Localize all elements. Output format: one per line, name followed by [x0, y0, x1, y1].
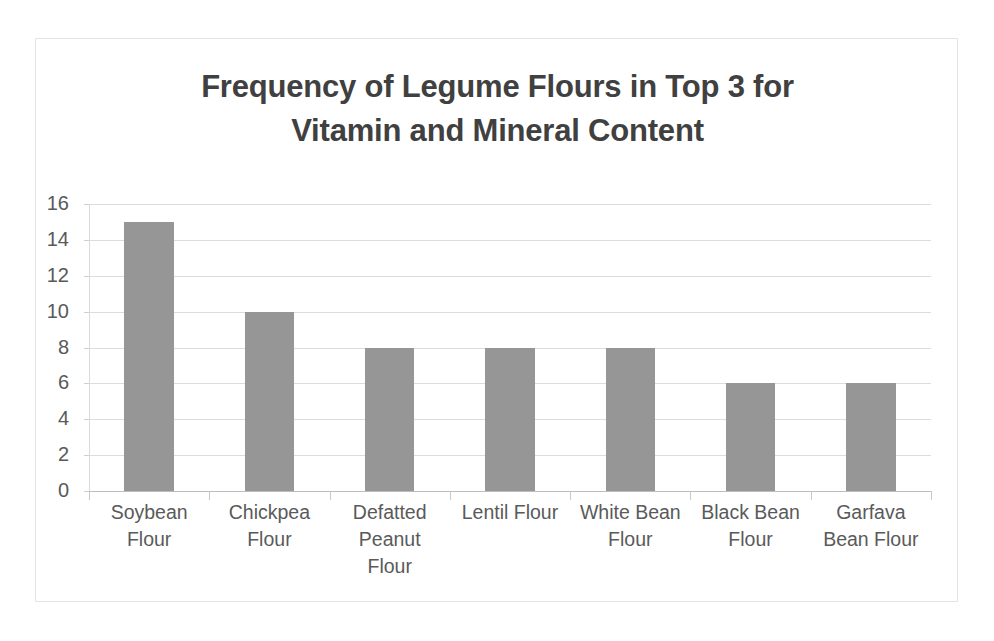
y-tick-label: 14: [29, 229, 69, 249]
chart-title-line-1: Frequency of Legume Flours in Top 3 for: [36, 65, 959, 109]
x-axis-category-label: GarfavaBean Flour: [811, 499, 931, 553]
y-tick-label: 8: [29, 337, 69, 357]
chart-container: Frequency of Legume Flours in Top 3 for …: [35, 38, 958, 602]
x-tick-mark: [931, 491, 932, 500]
category-label-line: White Bean: [570, 499, 690, 526]
category-label-line: Flour: [330, 553, 450, 580]
plot-area: 0246810121416: [89, 204, 931, 491]
bar[interactable]: [726, 383, 775, 491]
gridline: [89, 312, 931, 313]
category-label-line: Flour: [690, 526, 810, 553]
category-label-line: Flour: [209, 526, 329, 553]
category-label-line: Bean Flour: [811, 526, 931, 553]
y-tick-label: 0: [29, 480, 69, 500]
bar[interactable]: [365, 348, 414, 492]
chart-title: Frequency of Legume Flours in Top 3 for …: [36, 65, 959, 153]
x-axis-line: [89, 491, 931, 492]
bar[interactable]: [245, 312, 294, 491]
x-axis-category-label: ChickpeaFlour: [209, 499, 329, 553]
category-label-line: Soybean: [89, 499, 209, 526]
x-axis-category-label: SoybeanFlour: [89, 499, 209, 553]
bar[interactable]: [485, 348, 534, 492]
bar[interactable]: [124, 222, 173, 491]
chart-title-line-2: Vitamin and Mineral Content: [36, 109, 959, 153]
y-tick-label: 12: [29, 265, 69, 285]
x-axis-category-label: Lentil Flour: [450, 499, 570, 526]
category-label-line: Flour: [570, 526, 690, 553]
x-axis-category-labels: SoybeanFlourChickpeaFlourDefattedPeanutF…: [89, 499, 931, 599]
bar[interactable]: [606, 348, 655, 492]
gridline: [89, 240, 931, 241]
x-axis-category-label: DefattedPeanutFlour: [330, 499, 450, 580]
x-axis-category-label: Black BeanFlour: [690, 499, 810, 553]
category-label-line: Black Bean: [690, 499, 810, 526]
category-label-line: Flour: [89, 526, 209, 553]
category-label-line: Lentil Flour: [450, 499, 570, 526]
y-tick-label: 4: [29, 408, 69, 428]
y-tick-label: 6: [29, 372, 69, 392]
category-label-line: Garfava: [811, 499, 931, 526]
x-axis-category-label: White BeanFlour: [570, 499, 690, 553]
category-label-line: Chickpea: [209, 499, 329, 526]
y-tick-label: 10: [29, 301, 69, 321]
y-axis-line: [89, 204, 90, 491]
y-tick-label: 16: [29, 193, 69, 213]
gridline: [89, 276, 931, 277]
gridline: [89, 204, 931, 205]
category-label-line: Defatted: [330, 499, 450, 526]
y-tick-label: 2: [29, 444, 69, 464]
bar[interactable]: [846, 383, 895, 491]
category-label-line: Peanut: [330, 526, 450, 553]
